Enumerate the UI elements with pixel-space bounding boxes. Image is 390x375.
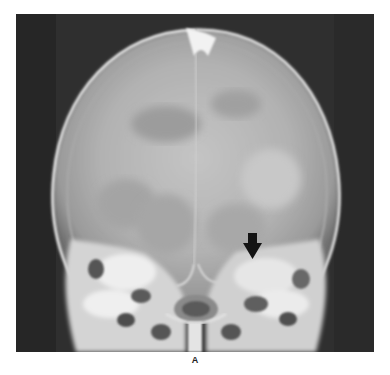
figure-label: A xyxy=(0,355,390,365)
xray-image xyxy=(16,14,374,352)
